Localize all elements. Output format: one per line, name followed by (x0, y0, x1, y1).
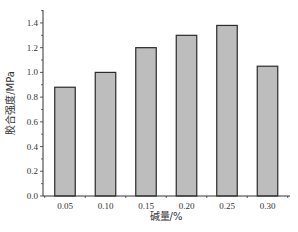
y-tick-label: 0.2 (27, 166, 38, 176)
bar-0.10 (95, 72, 116, 196)
x-ticks-group: 0.050.100.150.200.250.30 (45, 196, 288, 211)
x-tick-label: 0.15 (138, 201, 154, 211)
y-tick-label: 1.4 (27, 18, 39, 28)
bar-0.20 (176, 35, 197, 196)
x-tick-label: 0.25 (219, 201, 235, 211)
x-tick-label: 0.10 (98, 201, 114, 211)
bar-chart: 0.00.20.40.60.81.01.21.4 0.050.100.150.2… (0, 0, 298, 232)
x-tick-label: 0.05 (57, 201, 73, 211)
y-ticks-group: 0.00.20.40.60.81.01.21.4 (27, 11, 43, 201)
x-tick-label: 0.20 (179, 201, 195, 211)
y-tick-label: 1.2 (27, 43, 38, 53)
y-tick-label: 0.6 (27, 117, 39, 127)
bar-0.30 (257, 66, 278, 196)
y-tick-label: 0.8 (27, 92, 39, 102)
y-tick-label: 0.0 (27, 191, 39, 201)
bar-0.05 (55, 87, 76, 196)
y-tick-label: 1.0 (27, 67, 39, 77)
x-axis-title: 碱量/% (150, 211, 183, 222)
bars-group (55, 25, 278, 196)
y-axis-title: 胶合强度/MPa (4, 71, 16, 135)
y-tick-label: 0.4 (27, 142, 39, 152)
axes-group (43, 10, 290, 196)
x-tick-label: 0.30 (260, 201, 276, 211)
bar-0.25 (217, 25, 238, 196)
bar-0.15 (136, 48, 157, 196)
